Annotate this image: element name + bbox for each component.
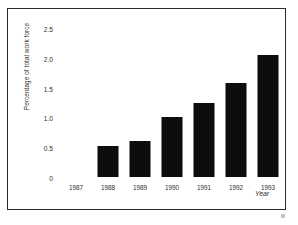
bar-group: 1992 [220, 9, 252, 209]
bar [226, 83, 247, 177]
x-tick-label: 1989 [133, 184, 147, 191]
bar [130, 141, 151, 177]
bar [162, 117, 183, 177]
x-tick-label: 1988 [101, 184, 115, 191]
x-tick-label: 1990 [165, 184, 179, 191]
y-tick-label: 0.5 [27, 146, 53, 153]
figure-frame: Percentage of total work force 00.51.01.… [7, 8, 286, 210]
bars-region: 1987198819891990199119921993 [60, 9, 277, 209]
chart-plot-area: Percentage of total work force 00.51.01.… [8, 9, 285, 209]
bar-group: 1987 [60, 9, 92, 209]
bar [98, 146, 119, 177]
bar-group: 1988 [92, 9, 124, 209]
bar [194, 103, 215, 178]
x-tick-label: 1987 [69, 184, 83, 191]
x-axis-title: Year [255, 190, 269, 197]
y-tick-label: 1.0 [27, 116, 53, 123]
scan-artifact [281, 214, 285, 218]
bar [258, 55, 279, 177]
y-tick-label: 2.5 [27, 27, 53, 34]
x-tick-label: 1992 [229, 184, 243, 191]
bar-group: 1990 [156, 9, 188, 209]
x-tick-label: 1991 [197, 184, 211, 191]
y-tick-label: 0 [27, 176, 53, 183]
y-tick-label: 2.0 [27, 57, 53, 64]
bar-group: 1991 [188, 9, 220, 209]
y-axis-tick-labels: 00.51.01.52.02.5 [27, 9, 53, 209]
bar-group: 1989 [124, 9, 156, 209]
y-tick-label: 1.5 [27, 86, 53, 93]
bar-group: 1993 [252, 9, 284, 209]
